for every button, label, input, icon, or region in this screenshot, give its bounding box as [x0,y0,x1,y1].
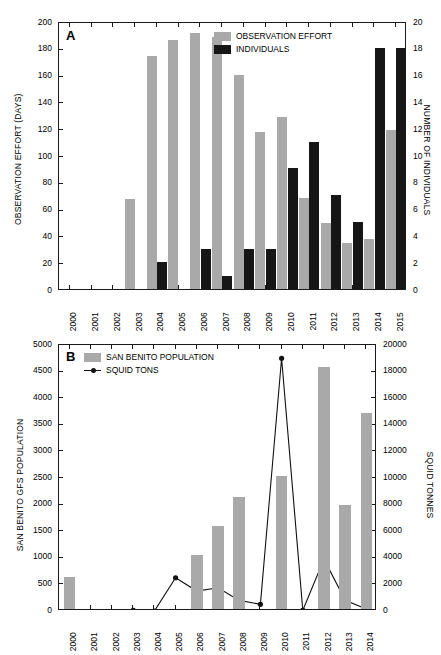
bar-observation-effort-2004 [147,56,157,289]
line-marker-icon [84,366,101,375]
panel-b-left-ytick-label: 500 [10,579,52,588]
legend-label-individuals: INDIVIDUALS [236,45,289,54]
bar-individuals-2004 [157,262,167,289]
bar-individuals-2012 [331,195,341,289]
bar-san-benito-population-2010 [276,476,288,609]
panel-b-plot-area: B SAN BENITO POPULATION SQUID TONS [58,344,376,610]
tick-mark [111,345,112,349]
panel-b-xtick-2009: 2009 [260,632,269,655]
tick-mark [59,102,63,103]
panel-b-left-ytick-label: 4000 [10,393,52,402]
tick-mark [175,345,176,349]
tick-mark [238,345,239,349]
panel-b-legend: SAN BENITO POPULATION SQUID TONS [84,352,214,378]
panel-b-right-ytick-label: 10000 [383,473,429,482]
panel-b-xtick-2007: 2007 [217,632,226,655]
panel-b-right-ytick-label: 16000 [383,393,429,402]
tick-mark [112,285,113,289]
panel-b-letter: B [66,350,75,363]
legend-label-squid-tons: SQUID TONS [106,366,159,375]
bar-san-benito-population-2006 [191,555,203,609]
tick-mark [371,397,375,398]
bar-observation-effort-2012 [321,223,331,289]
tick-mark [59,129,63,130]
bar-individuals-2014 [375,48,385,289]
panel-a-right-ytick-label: 18 [413,44,441,53]
bar-san-benito-population-2012 [318,367,330,609]
panel-b-xtick-2014: 2014 [366,632,375,655]
panel-a-letter: A [66,29,75,42]
tick-mark [59,156,63,157]
tick-mark [221,23,222,27]
panel-b-right-ytick-label: 18000 [383,366,429,375]
panel-a-bars-layer [59,23,405,289]
tick-mark [352,23,353,27]
tick-mark [175,605,176,609]
bar-observation-effort-2005 [168,40,178,289]
panel-b-right-ytick-label: 0 [383,606,429,615]
panel-a-left-ytick-label: 100 [10,152,52,161]
panel-a-left-ytick-label: 80 [10,178,52,187]
tick-mark [156,23,157,27]
tick-mark [365,345,366,349]
bar-observation-effort-2011 [299,198,309,289]
tick-mark [153,605,154,609]
tick-mark [308,23,309,27]
panel-b: SAN BENITO GFS POPULATION SQUID TONNES B… [0,330,441,650]
tick-mark [59,76,63,77]
bar-individuals-2013 [353,222,363,289]
legend-label-observation-effort: OBSERVATION EFFORT [236,32,332,41]
bar-observation-effort-2013 [342,243,352,289]
panel-a-left-ytick-label: 200 [10,18,52,27]
black-swatch-icon [214,45,231,54]
legend-item-san-benito-population: SAN BENITO POPULATION [84,352,214,363]
bar-san-benito-population-2008 [233,497,245,609]
panel-a-left-ytick-label: 160 [10,71,52,80]
tick-mark [371,371,375,372]
tick-mark [59,450,63,451]
panel-a-right-ytick-label: 0 [413,286,441,295]
panel-a-right-ytick-label: 8 [413,178,441,187]
panel-a-right-ytick-label: 12 [413,125,441,134]
panel-a-right-ytick-label: 4 [413,232,441,241]
bar-individuals-2011 [309,142,319,289]
panel-b-right-ytick-label: 8000 [383,499,429,508]
tick-mark [59,504,63,505]
tick-mark [302,345,303,349]
panel-b-xtick-2011: 2011 [302,632,311,655]
panel-a-right-ytick-label: 10 [413,152,441,161]
gray-swatch-icon [214,32,231,41]
gray-swatch-icon [84,353,101,362]
bar-observation-effort-2014 [364,239,374,289]
panel-b-left-ytick-label: 3500 [10,419,52,428]
squid-tons-point [173,575,178,580]
tick-mark [153,345,154,349]
panel-b-right-ytick-label: 6000 [383,526,429,535]
legend-item-individuals: INDIVIDUALS [214,44,332,55]
panel-a-left-ytick-label: 60 [10,205,52,214]
tick-mark [265,23,266,27]
bar-observation-effort-2007 [212,37,222,289]
tick-mark [111,605,112,609]
tick-mark [112,23,113,27]
panel-a-legend: OBSERVATION EFFORT INDIVIDUALS [214,31,332,57]
bar-san-benito-population-2000 [64,577,76,609]
tick-mark [134,23,135,27]
panel-b-right-ytick-label: 2000 [383,579,429,588]
tick-mark [69,23,70,27]
panel-b-xtick-2013: 2013 [344,632,353,655]
tick-mark [59,263,63,264]
panel-a-left-ytick-label: 40 [10,232,52,241]
panel-b-right-ytick-label: 12000 [383,446,429,455]
panel-b-right-ytick-label: 14000 [383,419,429,428]
tick-mark [59,183,63,184]
panel-b-xtick-2006: 2006 [196,632,205,655]
panel-b-xtick-2012: 2012 [323,632,332,655]
tick-mark [330,23,331,27]
tick-mark [59,371,63,372]
tick-mark [259,345,260,349]
bar-individuals-2010 [288,168,298,289]
panel-b-left-ytick-label: 1500 [10,526,52,535]
bar-observation-effort-2010 [277,117,287,289]
